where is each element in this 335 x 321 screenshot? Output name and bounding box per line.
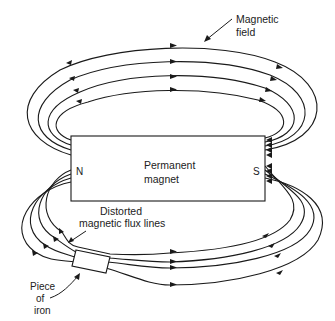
- distorted-pointer: [71, 231, 86, 241]
- magnet-diagram: Magnetic field Permanent magnet N S Dist…: [0, 0, 335, 321]
- distorted-label-line1: Distorted: [100, 205, 142, 217]
- magnet-label-line2: magnet: [144, 173, 179, 185]
- iron-label-line3: iron: [34, 305, 51, 316]
- magnetic-field-pointer-arrowhead: [204, 35, 211, 42]
- piece-of-iron: [72, 250, 110, 273]
- south-pole-label: S: [253, 166, 260, 177]
- iron-label-line1: Piece: [30, 281, 55, 292]
- magnetic-field-pointer: [206, 19, 232, 40]
- magnetic-field-label-line1: Magnetic: [236, 13, 279, 25]
- iron-label-line2: of: [36, 293, 45, 304]
- magnetic-field-label-line2: field: [236, 26, 255, 38]
- north-pole-label: N: [76, 166, 83, 177]
- distorted-label-line2: magnetic flux lines: [79, 217, 165, 229]
- distorted-pointer-arrowhead: [68, 237, 74, 243]
- magnet-label-line1: Permanent: [144, 159, 195, 171]
